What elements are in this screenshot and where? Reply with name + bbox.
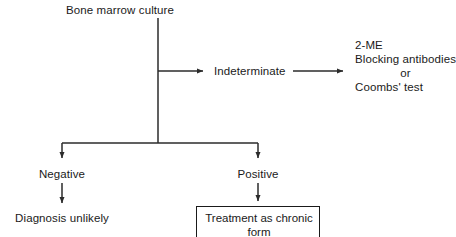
node-treatment-box: Treatment as chronic form: [196, 206, 320, 237]
assay-line-2me: 2-ME: [355, 38, 456, 52]
node-assay-options: 2-ME Blocking antibodies or Coombs' test: [355, 38, 456, 94]
node-negative: Negative: [39, 167, 85, 181]
treatment-line-2: form: [197, 225, 321, 237]
node-positive: Positive: [237, 167, 278, 181]
assay-line-coombs-test: Coombs' test: [355, 80, 456, 94]
flowchart-connectors: [0, 0, 456, 237]
flowchart-diagram: Bone marrow culture Indeterminate 2-ME B…: [0, 0, 456, 237]
node-diagnosis-unlikely: Diagnosis unlikely: [15, 211, 109, 225]
node-bone-marrow-culture: Bone marrow culture: [66, 3, 174, 17]
assay-line-or: or: [355, 66, 456, 80]
treatment-line-1: Treatment as chronic: [197, 211, 321, 225]
node-indeterminate: Indeterminate: [214, 64, 286, 78]
treatment-box-text: Treatment as chronic form: [197, 211, 321, 237]
assay-line-blocking-antibodies: Blocking antibodies: [355, 52, 456, 66]
